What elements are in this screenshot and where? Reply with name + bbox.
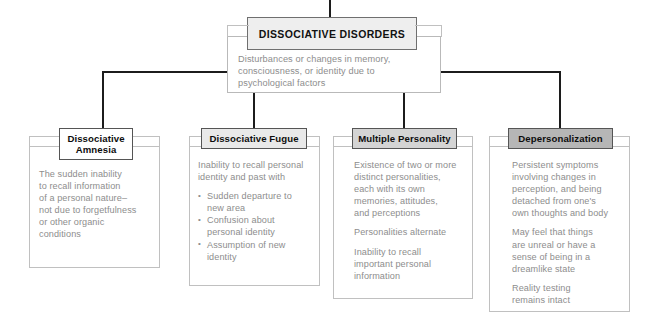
node-content: Existence of two or more distinct person… [354,159,466,282]
node-paragraph: Inability to recall important personal i… [354,246,466,282]
node-content: The sudden inability to recall informati… [39,168,151,241]
root-shoulder-right [415,25,442,37]
connector-drop-amnesia [102,71,104,129]
node-shoulder-right [611,136,630,147]
node-title: Depersonalization [518,133,602,145]
root-node-description: Disturbances or changes in memory, consc… [238,53,438,90]
node-content: Persistent symptoms involving changes in… [512,159,625,306]
dissociative-disorders-diagram: Disturbances or changes in memory, consc… [0,0,660,335]
node-shoulder-right [131,136,160,147]
node-title: Dissociative Fugue [209,133,298,145]
node-bullet-list: Sudden departure to new areaConfusion ab… [198,190,313,263]
node-bullet-item: Confusion about personal identity [198,214,313,238]
node-shoulder-left [29,136,61,147]
node-title: Dissociative Amnesia [60,133,132,156]
root-shoulder-left [227,25,249,37]
node-paragraph: Inability to recall personal identity an… [198,159,313,183]
node-paragraph: Personalities alternate [354,226,466,238]
connector-drop-depersonalization [559,71,561,129]
node-bullet-item: Sudden departure to new area [198,190,313,214]
node-paragraph: May feel that things are unreal or have … [512,226,625,274]
node-paragraph: Persistent symptoms involving changes in… [512,159,625,219]
node-paragraph: The sudden inability to recall informati… [39,168,151,241]
connector-drop-fugue [253,93,255,129]
node-header: Multiple Personality [352,128,457,149]
node-header: Dissociative Amnesia [59,128,133,160]
connector-drop-multiple-personality [403,93,405,129]
node-title: Multiple Personality [358,133,451,145]
node-shoulder-left [489,136,510,147]
node-paragraph: Reality testing remains intact [512,282,625,306]
node-bullet-item: Assumption of new identity [198,239,313,263]
node-paragraph: Existence of two or more distinct person… [354,159,466,219]
node-shoulder-right [455,136,473,147]
node-content: Inability to recall personal identity an… [198,159,313,263]
node-shoulder-right [305,136,320,147]
root-node-title: DISSOCIATIVE DISORDERS [259,28,405,40]
root-node-header: DISSOCIATIVE DISORDERS [247,17,417,50]
node-header: Dissociative Fugue [201,128,307,149]
node-shoulder-left [333,136,354,147]
node-header: Depersonalization [508,128,613,149]
